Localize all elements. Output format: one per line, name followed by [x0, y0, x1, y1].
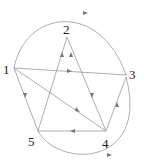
edge-1-3-arc [14, 22, 126, 75]
node-3-label: 3 [129, 67, 136, 83]
graph-diagram: 1 2 3 4 5 [0, 0, 145, 165]
graph-edges [0, 0, 145, 165]
node-5-label: 5 [28, 134, 35, 150]
node-4-label: 4 [102, 136, 109, 152]
node-1-label: 1 [3, 62, 10, 78]
node-2-label: 2 [63, 22, 70, 38]
